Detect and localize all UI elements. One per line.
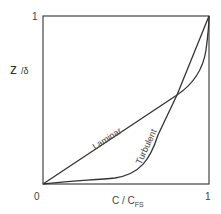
x-tick-1: 1 (205, 192, 211, 202)
chart-canvas: Laminar Turbulent (0, 0, 221, 214)
plot-frame (43, 16, 209, 184)
x-tick-0: 0 (34, 192, 40, 202)
turbulent-curve (43, 16, 209, 184)
y-axis-label-main: z (10, 61, 17, 77)
y-axis-label: z /δ (10, 62, 28, 76)
x-axis-label-sub: FS (135, 201, 144, 208)
x-axis-label: C / CFS (112, 196, 144, 208)
y-axis-label-denominator: /δ (21, 66, 29, 76)
laminar-label: Laminar (91, 126, 124, 152)
x-axis-label-main: C / C (112, 195, 135, 206)
y-tick-1: 1 (32, 12, 38, 22)
laminar-curve (43, 16, 209, 184)
